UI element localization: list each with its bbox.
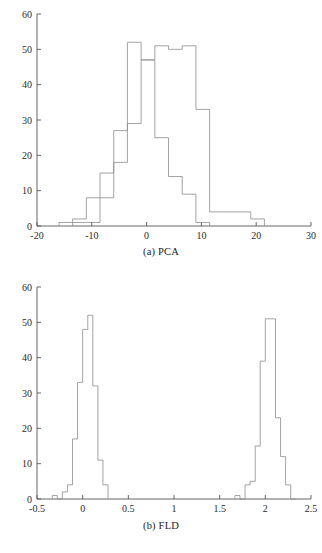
y-axis-tick-label: 60 <box>22 282 32 293</box>
pca-histogram-plot: 0102030405060-20-100102030 <box>0 0 322 245</box>
figure-pca: 0102030405060-20-100102030 (a) PCA <box>0 0 322 270</box>
x-axis-tick-label: -0.5 <box>29 503 45 514</box>
y-axis-tick-label: 10 <box>22 185 32 196</box>
axis-spine <box>37 14 311 226</box>
figure-page: 0102030405060-20-100102030 (a) PCA 01020… <box>0 0 322 553</box>
x-axis-tick-label: 0 <box>144 230 149 241</box>
y-axis-tick-label: 40 <box>22 352 32 363</box>
histogram-outline-class-1 <box>52 315 108 499</box>
x-axis-tick-label: -10 <box>85 230 98 241</box>
x-axis-tick-label: -20 <box>30 230 43 241</box>
y-axis-tick-label: 60 <box>22 9 32 20</box>
x-axis-tick-label: 0 <box>80 503 85 514</box>
x-axis-tick-label: 20 <box>251 230 261 241</box>
x-axis-tick-label: 2 <box>263 503 268 514</box>
x-axis-tick-label: 30 <box>306 230 316 241</box>
fld-histogram-plot: 0102030405060-0.500.511.522.5 <box>0 277 322 519</box>
y-axis-tick-label: 30 <box>22 115 32 126</box>
histogram-outline-class-1 <box>59 42 210 226</box>
y-axis-tick-label: 40 <box>22 79 32 90</box>
figure-fld: 0102030405060-0.500.511.522.5 (b) FLD <box>0 277 322 553</box>
y-axis-tick-label: 20 <box>22 150 32 161</box>
y-axis-tick-label: 50 <box>22 317 32 328</box>
y-axis-tick-label: 10 <box>22 458 32 469</box>
histogram-outline-class-2 <box>73 46 265 226</box>
x-axis-tick-label: 1 <box>172 503 177 514</box>
x-axis-tick-label: 0.5 <box>122 503 135 514</box>
x-axis-tick-label: 2.5 <box>305 503 318 514</box>
x-axis-tick-label: 10 <box>196 230 206 241</box>
y-axis-tick-label: 50 <box>22 44 32 55</box>
y-axis-tick-label: 30 <box>22 388 32 399</box>
y-axis-tick-label: 20 <box>22 423 32 434</box>
x-axis-tick-label: 1.5 <box>213 503 226 514</box>
figure-caption-pca: (a) PCA <box>0 246 322 257</box>
histogram-outline-class-2 <box>235 319 296 499</box>
figure-caption-fld: (b) FLD <box>0 520 322 531</box>
